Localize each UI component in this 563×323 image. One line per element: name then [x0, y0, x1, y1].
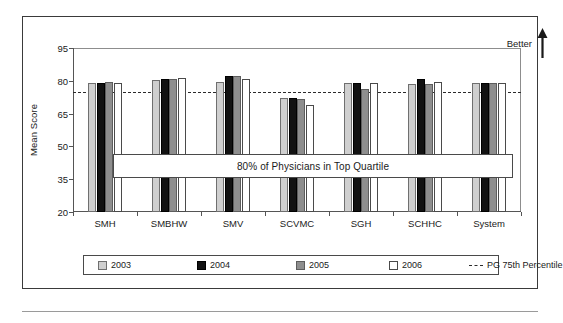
- y-axis-label: Mean Score: [28, 104, 39, 156]
- bar-SCHHC-2006: [434, 82, 442, 212]
- bar-SMV-2003: [216, 82, 224, 212]
- y-axis-tick-mark: [69, 48, 73, 49]
- x-axis-tick-mark: [137, 212, 138, 216]
- legend-label-2006: 2006: [402, 260, 422, 270]
- bar-System-2005: [489, 83, 497, 212]
- x-axis-tick-label: SMV: [223, 218, 244, 229]
- y-axis-tick-label: 35: [46, 174, 68, 185]
- legend-label-2005: 2005: [309, 260, 329, 270]
- legend-item-2003: 2003: [98, 260, 131, 270]
- bar-System-2004: [481, 83, 489, 212]
- x-axis-tick-mark: [393, 212, 394, 216]
- legend-swatch-2004: [197, 261, 206, 270]
- bar-SCHHC-2003: [408, 84, 416, 212]
- legend-dashed-line-icon: [469, 265, 483, 266]
- x-axis-tick-mark: [329, 212, 330, 216]
- top-quartile-annotation-text: 80% of Physicians in Top Quartile: [237, 161, 389, 172]
- legend-swatch-2003: [98, 261, 107, 270]
- bar-SMH-2003: [88, 83, 96, 212]
- pg-75th-percentile-line: [73, 92, 521, 93]
- bar-SMV-2004: [225, 76, 233, 212]
- bar-SMV-2005: [233, 76, 241, 212]
- bar-SMBHW-2003: [152, 80, 160, 212]
- bar-SMV-2006: [242, 79, 250, 212]
- bar-System-2003: [472, 83, 480, 212]
- legend-item-2005: 2005: [296, 260, 329, 270]
- legend-swatch-2005: [296, 261, 305, 270]
- legend-label-2003: 2003: [111, 260, 131, 270]
- x-axis-tick-mark: [521, 212, 522, 216]
- y-axis-tick-mark: [69, 114, 73, 115]
- y-axis-tick-label: 95: [46, 43, 68, 54]
- bar-SCHHC-2005: [425, 84, 433, 212]
- x-axis-tick-label: SCVMC: [280, 218, 314, 229]
- legend-item-2004: 2004: [197, 260, 230, 270]
- x-axis-tick-mark: [73, 212, 74, 216]
- bar-SCHHC-2004: [417, 79, 425, 212]
- x-axis-tick-mark: [457, 212, 458, 216]
- x-axis-tick-label: SMH: [94, 218, 115, 229]
- bar-SGH-2003: [344, 83, 352, 212]
- figure-bottom-rule: [22, 311, 538, 312]
- up-arrow-icon: [537, 28, 548, 58]
- x-axis-tick-label: SCHHC: [408, 218, 442, 229]
- x-axis-tick-mark: [201, 212, 202, 216]
- bar-SGH-2006: [370, 83, 378, 212]
- better-label: Better: [507, 38, 532, 49]
- y-axis-tick-label: 80: [46, 75, 68, 86]
- y-axis-tick-mark: [69, 179, 73, 180]
- legend-label-pg-75th-percentile: PG 75th Percentile: [487, 260, 563, 270]
- bar-SMBHW-2006: [178, 78, 186, 212]
- y-axis-tick-label: 20: [46, 207, 68, 218]
- bar-SMH-2006: [114, 83, 122, 212]
- bar-SMH-2005: [105, 82, 113, 212]
- y-axis-tick-mark: [69, 146, 73, 147]
- bar-SMBHW-2004: [161, 79, 169, 212]
- x-axis-tick-label: SMBHW: [151, 218, 187, 229]
- legend-swatch-2006: [389, 261, 398, 270]
- bar-SGH-2004: [353, 83, 361, 212]
- bar-SGH-2005: [361, 89, 369, 212]
- x-axis-tick-label: System: [473, 218, 505, 229]
- bar-SMH-2004: [97, 83, 105, 212]
- bar-SMBHW-2005: [169, 79, 177, 212]
- y-axis-tick-label: 50: [46, 141, 68, 152]
- bar-System-2006: [498, 83, 506, 212]
- x-axis-tick-mark: [265, 212, 266, 216]
- legend-item-pg-75th-percentile: PG 75th Percentile: [469, 260, 563, 270]
- y-axis-tick-mark: [69, 81, 73, 82]
- y-axis-tick-label: 65: [46, 108, 68, 119]
- chart-legend: 2003200420052006PG 75th Percentile: [83, 255, 499, 275]
- legend-label-2004: 2004: [210, 260, 230, 270]
- top-quartile-annotation: 80% of Physicians in Top Quartile: [113, 154, 513, 178]
- legend-item-2006: 2006: [389, 260, 422, 270]
- x-axis-tick-label: SGH: [351, 218, 372, 229]
